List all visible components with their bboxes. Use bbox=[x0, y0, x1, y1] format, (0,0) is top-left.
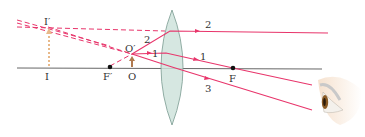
focal-point-front bbox=[108, 65, 113, 70]
label-object-base: O bbox=[128, 71, 136, 82]
label-ray1: 1 bbox=[200, 51, 206, 62]
label-image-base: I bbox=[45, 71, 49, 82]
label-focal-front: F′ bbox=[103, 71, 113, 82]
ray-2 bbox=[132, 31, 328, 54]
label-image-top: I′ bbox=[44, 16, 51, 27]
eye-pupil bbox=[323, 98, 326, 106]
ray-from-focal-dashed bbox=[110, 54, 132, 66]
label-ray2-right: 2 bbox=[205, 19, 211, 30]
optics-diagram: I′ I O′ O F′ F 2 2 1 1 3 bbox=[0, 0, 365, 137]
virtual-image-arrow bbox=[46, 28, 52, 66]
label-ray3: 3 bbox=[205, 83, 211, 94]
label-object-top: O′ bbox=[125, 43, 136, 54]
focal-point-back bbox=[231, 66, 236, 71]
eye-icon bbox=[318, 77, 362, 125]
object-arrow-head bbox=[129, 56, 135, 61]
ray-3 bbox=[132, 54, 312, 110]
label-focal-back: F bbox=[229, 73, 236, 84]
ray1-extension bbox=[17, 23, 132, 54]
arrowhead-ray2 bbox=[195, 29, 200, 33]
label-ray1-left: 1 bbox=[152, 48, 158, 59]
image-arrow-head bbox=[46, 28, 52, 34]
virtual-ray-extensions bbox=[17, 20, 165, 66]
object-arrow bbox=[129, 56, 135, 67]
ray3-extension bbox=[48, 27, 132, 54]
label-ray2-left: 2 bbox=[144, 34, 150, 45]
ray2-extension-horizontal bbox=[17, 27, 165, 31]
